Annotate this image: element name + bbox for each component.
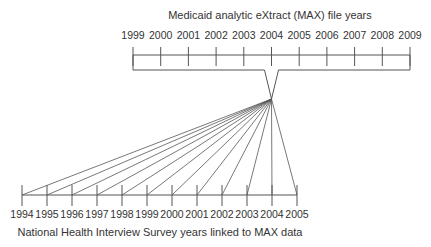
diagram-canvas: Medicaid analytic eXtract (MAX) file yea… [0,0,431,247]
bottom-year-label: 2004 [260,208,283,220]
link-line [122,99,272,195]
top-year-label: 1999 [121,29,144,41]
link-line [222,99,272,195]
link-line [172,99,272,195]
top-year-label: 2000 [149,29,172,41]
bottom-year-label: 1996 [60,208,83,220]
link-line [272,99,298,195]
top-year-label: 2007 [343,29,366,41]
top-year-label: 2005 [288,29,311,41]
top-year-label: 2006 [315,29,338,41]
bottom-year-label: 2005 [285,208,308,220]
link-line [72,99,272,195]
bottom-year-label: 2003 [235,208,258,220]
bottom-year-label: 1997 [85,208,108,220]
bottom-year-label: 2001 [185,208,208,220]
bottom-year-label: 2000 [160,208,183,220]
top-timeline-title: Medicaid analytic eXtract (MAX) file yea… [168,9,372,21]
top-year-label: 2004 [260,29,283,41]
top-year-label: 2002 [204,29,227,41]
link-line [47,99,272,195]
bottom-year-label: 2002 [210,208,233,220]
bottom-year-label: 1999 [135,208,158,220]
top-year-label: 2009 [398,29,421,41]
link-line [272,99,273,195]
top-year-label: 2008 [371,29,394,41]
bottom-year-label: 1994 [10,208,33,220]
bottom-year-label: 1998 [110,208,133,220]
link-line [247,99,272,195]
link-line [97,99,272,195]
bottom-timeline-title: National Health Interview Survey years l… [18,226,303,238]
link-line [147,99,272,195]
bottom-year-label: 1995 [35,208,58,220]
top-year-label: 2001 [177,29,200,41]
top-year-label: 2003 [232,29,255,41]
